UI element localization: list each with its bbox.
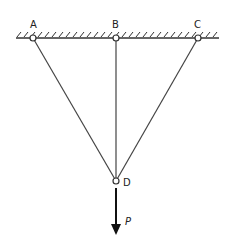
pin-a-icon (30, 35, 36, 41)
pin-b-icon (113, 35, 119, 41)
label-a: A (30, 19, 37, 30)
pin-d-icon (113, 178, 119, 184)
arrowhead-icon (111, 224, 121, 235)
label-p: P (125, 216, 132, 227)
label-b: B (112, 19, 119, 30)
label-c: C (194, 19, 201, 30)
member-cd (116, 38, 198, 181)
pin-c-icon (195, 35, 201, 41)
truss-members (33, 38, 198, 181)
truss-diagram: A B C D P (0, 0, 235, 241)
load-arrow (111, 188, 121, 235)
member-ad (33, 38, 116, 181)
label-d: D (123, 177, 131, 188)
